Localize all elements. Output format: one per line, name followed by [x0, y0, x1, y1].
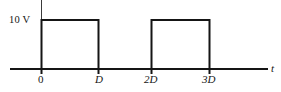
tick-label-0: 0 — [38, 74, 44, 85]
tick-label-2d: 2D — [144, 74, 157, 85]
tick-label-d: D — [95, 74, 103, 85]
pulse-train-waveform — [42, 20, 210, 69]
square-wave-figure: 10 V 0 D 2D 3D t — [0, 0, 281, 92]
tick-label-3d: 3D — [202, 74, 215, 85]
amplitude-label: 10 V — [9, 15, 30, 26]
x-axis-label: t — [271, 63, 274, 74]
